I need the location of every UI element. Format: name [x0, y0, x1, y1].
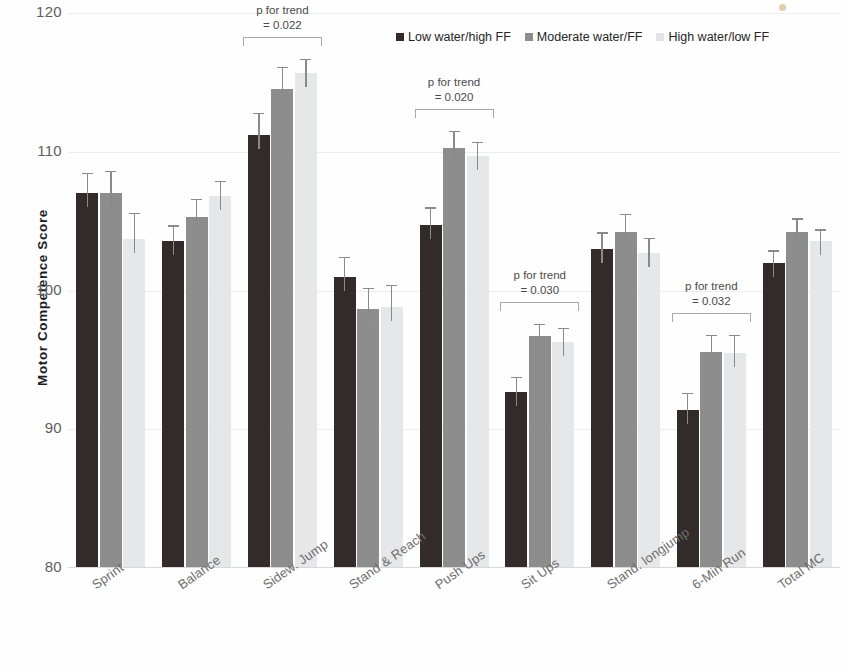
bar-group — [248, 13, 317, 568]
y-axis-ticks: 8090100110120 — [0, 0, 62, 671]
error-bar — [430, 207, 431, 239]
y-tick-label: 100 — [16, 281, 62, 298]
p-value-label: p for trend= 0.020 — [394, 75, 514, 105]
error-bar — [134, 213, 135, 253]
p-value-line-2: = 0.030 — [480, 283, 600, 298]
error-bar — [563, 328, 564, 356]
y-tick-label: 80 — [16, 558, 62, 575]
error-bar-cap — [620, 214, 631, 215]
p-symbol: p — [428, 76, 434, 88]
error-bar-cap — [215, 181, 226, 182]
significance-bracket — [672, 313, 751, 322]
bar-group — [763, 13, 832, 568]
error-bar-cap — [277, 67, 288, 68]
chart-legend: Low water/high FFModerate water/FFHigh w… — [396, 30, 769, 44]
p-value-line-2: = 0.032 — [651, 294, 771, 309]
error-bar-cap — [729, 335, 740, 336]
p-symbol: p — [256, 4, 262, 16]
bar — [420, 225, 442, 568]
error-bar — [820, 229, 821, 254]
y-tick-label: 120 — [16, 3, 62, 20]
error-bar-cap — [682, 393, 693, 394]
error-bar-cap — [253, 113, 264, 114]
legend-label: Moderate water/FF — [537, 30, 643, 44]
error-bar — [258, 113, 259, 149]
bar — [443, 148, 465, 568]
bar — [248, 135, 270, 568]
error-bar — [196, 199, 197, 231]
p-value-line-1: p for trend — [394, 75, 514, 90]
bar — [271, 89, 293, 568]
error-bar — [173, 225, 174, 254]
error-bar-cap — [300, 59, 311, 60]
error-bar — [773, 250, 774, 276]
bar — [615, 232, 637, 568]
error-bar — [601, 232, 602, 263]
bar-group — [162, 13, 231, 568]
significance-bracket — [500, 302, 579, 311]
error-bar-cap — [82, 173, 93, 174]
bar — [724, 353, 746, 568]
bar — [123, 239, 145, 568]
bar — [357, 309, 379, 568]
bar — [552, 342, 574, 568]
bar — [209, 196, 231, 568]
y-tick-label: 110 — [16, 142, 62, 159]
error-bar-cap — [558, 328, 569, 329]
bar-chart: Motor Competence Score 8090100110120 Spr… — [0, 0, 848, 671]
error-bar — [648, 238, 649, 267]
error-bar-cap — [191, 199, 202, 200]
error-bar — [344, 257, 345, 290]
error-bar — [87, 173, 88, 208]
p-value-line-1: p for trend — [651, 279, 771, 294]
significance-bracket — [243, 37, 322, 46]
bar-group — [334, 13, 403, 568]
bar — [186, 217, 208, 568]
p-symbol: p — [514, 269, 520, 281]
error-bar — [305, 59, 306, 87]
p-value-label: p for trend= 0.030 — [480, 268, 600, 298]
error-bar — [711, 335, 712, 366]
legend-item[interactable]: Low water/high FF — [396, 30, 511, 44]
bar — [810, 241, 832, 568]
legend-swatch-icon — [656, 33, 664, 41]
bar — [505, 392, 527, 568]
bar — [467, 156, 489, 568]
error-bar-cap — [472, 142, 483, 143]
error-bar-cap — [768, 250, 779, 251]
error-bar — [796, 218, 797, 246]
p-value-label: p for trend= 0.022 — [222, 3, 342, 33]
error-bar — [734, 335, 735, 367]
error-bar — [282, 67, 283, 103]
error-bar — [625, 214, 626, 246]
error-bar — [391, 285, 392, 321]
bar — [700, 352, 722, 568]
p-symbol: p — [685, 280, 691, 292]
error-bar-cap — [792, 218, 803, 219]
error-bar-cap — [511, 377, 522, 378]
artifact-mark — [779, 4, 786, 11]
p-value-line-1: p for trend — [222, 3, 342, 18]
legend-swatch-icon — [396, 33, 404, 41]
bar — [381, 307, 403, 568]
error-bar — [516, 377, 517, 406]
p-value-line-2: = 0.022 — [222, 18, 342, 33]
error-bar-cap — [597, 232, 608, 233]
error-bar-cap — [534, 324, 545, 325]
error-bar — [220, 181, 221, 210]
legend-label: High water/low FF — [668, 30, 769, 44]
legend-item[interactable]: Moderate water/FF — [525, 30, 643, 44]
error-bar-cap — [129, 213, 140, 214]
bar-group — [591, 13, 660, 568]
error-bar-cap — [168, 225, 179, 226]
error-bar-cap — [105, 171, 116, 172]
legend-item[interactable]: High water/low FF — [656, 30, 769, 44]
bar-group — [76, 13, 145, 568]
error-bar — [368, 288, 369, 323]
error-bar — [477, 142, 478, 170]
bar — [334, 277, 356, 568]
error-bar — [687, 393, 688, 424]
error-bar-cap — [449, 131, 460, 132]
error-bar-cap — [644, 238, 655, 239]
legend-label: Low water/high FF — [408, 30, 511, 44]
